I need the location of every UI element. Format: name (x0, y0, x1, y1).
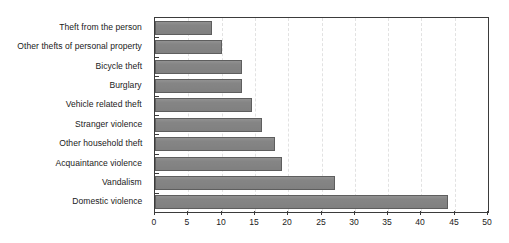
x-axis: 05101520253035404550 (154, 211, 487, 243)
y-axis-tick (155, 134, 159, 135)
category-label-row: Theft from the person (0, 17, 148, 36)
y-axis-tick (155, 57, 159, 58)
x-axis-tick-label: 25 (316, 217, 326, 228)
category-label: Acquaintance violence (56, 158, 142, 168)
x-axis-tick (254, 211, 255, 215)
category-axis-labels: Theft from the personOther thefts of per… (0, 17, 148, 211)
bar-chart-figure: Theft from the personOther thefts of per… (0, 0, 509, 243)
category-label-row: Other household theft (0, 133, 148, 152)
x-axis-tick (287, 211, 288, 215)
category-label: Other household theft (59, 138, 142, 148)
x-axis-tick (387, 211, 388, 215)
x-axis-tick (354, 211, 355, 215)
x-axis-tick (321, 211, 322, 215)
category-label-row: Domestic violence (0, 192, 148, 211)
bars-layer (155, 18, 488, 212)
x-axis-tick (154, 211, 155, 215)
bar[interactable] (155, 79, 242, 93)
category-label-row: Burglary (0, 75, 148, 94)
y-axis-tick (155, 76, 159, 77)
bar[interactable] (155, 118, 262, 132)
category-label-row: Vandalism (0, 172, 148, 191)
x-axis-tick-label: 45 (449, 217, 459, 228)
bar[interactable] (155, 195, 448, 209)
category-label: Vehicle related theft (66, 99, 142, 109)
x-axis-tick (454, 211, 455, 215)
x-axis-tick-label: 40 (416, 217, 426, 228)
bar-row (155, 57, 488, 76)
bar-row (155, 173, 488, 192)
y-axis-tick (155, 37, 159, 38)
x-axis-tick-label: 5 (185, 217, 190, 228)
x-axis-tick-label: 50 (482, 217, 492, 228)
bar-row (155, 18, 488, 37)
bar[interactable] (155, 98, 252, 112)
category-label-row: Other thefts of personal property (0, 36, 148, 55)
category-label-row: Vehicle related theft (0, 95, 148, 114)
bar[interactable] (155, 157, 282, 171)
x-axis-tick (187, 211, 188, 215)
x-axis-tick (420, 211, 421, 215)
bar[interactable] (155, 176, 335, 190)
bar-row (155, 115, 488, 134)
x-axis-tick-label: 15 (249, 217, 259, 228)
bar[interactable] (155, 60, 242, 74)
bar-row (155, 96, 488, 115)
x-axis-tick-label: 20 (282, 217, 292, 228)
bar[interactable] (155, 21, 212, 35)
x-axis-tick (221, 211, 222, 215)
x-axis-tick-label: 35 (382, 217, 392, 228)
bar[interactable] (155, 40, 222, 54)
category-label: Burglary (110, 80, 142, 90)
plot-area (154, 17, 489, 213)
y-axis-tick (155, 96, 159, 97)
bar-row (155, 37, 488, 56)
y-axis-tick (155, 115, 159, 116)
category-label: Stranger violence (75, 119, 142, 129)
bar-row (155, 154, 488, 173)
x-axis-tick-label: 30 (349, 217, 359, 228)
y-axis-tick (155, 173, 159, 174)
category-label: Vandalism (102, 177, 142, 187)
y-axis-tick (155, 154, 159, 155)
category-label: Domestic violence (72, 196, 142, 206)
bar-row (155, 76, 488, 95)
category-label-row: Bicycle theft (0, 56, 148, 75)
bar-row (155, 193, 488, 212)
category-label-row: Stranger violence (0, 114, 148, 133)
category-label-row: Acquaintance violence (0, 153, 148, 172)
x-axis-tick-label: 10 (216, 217, 226, 228)
x-axis-tick-label: 0 (152, 217, 157, 228)
bar-row (155, 134, 488, 153)
category-label: Theft from the person (59, 22, 142, 32)
bar[interactable] (155, 137, 275, 151)
x-axis-tick (487, 211, 488, 215)
category-label: Bicycle theft (95, 61, 142, 71)
category-label: Other thefts of personal property (17, 41, 142, 51)
y-axis-tick (155, 193, 159, 194)
